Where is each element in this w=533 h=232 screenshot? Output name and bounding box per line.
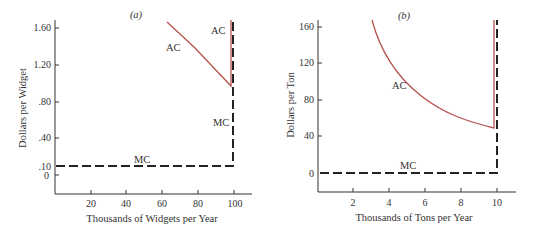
x-tick-label: 40 xyxy=(121,198,131,209)
x-tick-label: 4 xyxy=(387,197,392,208)
x-tick-label: 100 xyxy=(228,198,243,209)
y-tick-label: .40 xyxy=(39,132,52,143)
y-tick-label: 0 xyxy=(309,168,314,179)
panel-b: (b) 160 120 80 40 0 2 4 6 8 10 xyxy=(285,10,516,223)
mc-label: MC xyxy=(134,154,150,165)
y-tick-label: 0 xyxy=(44,170,49,181)
panel-a: (a) 1.60 1.20 .80 .40 .10 0 20 40 xyxy=(17,9,252,224)
x-tick-label: 80 xyxy=(193,198,203,209)
figure: (a) 1.60 1.20 .80 .40 .10 0 20 40 xyxy=(0,0,533,232)
x-tick-label: 2 xyxy=(351,197,356,208)
y-tick-label: 40 xyxy=(304,130,314,141)
y-tick-label: .80 xyxy=(39,96,52,107)
x-axis-label: Thousands of Widgets per Year xyxy=(86,213,218,224)
x-ticks: 20 40 60 80 100 xyxy=(86,190,243,209)
y-tick-label: 1.60 xyxy=(34,22,52,33)
mc-curve xyxy=(320,20,497,173)
y-axis-label: Dollars per Ton xyxy=(285,71,296,137)
x-tick-label: 20 xyxy=(86,198,96,209)
x-ticks: 2 4 6 8 10 xyxy=(351,188,503,208)
panel-a-label: (a) xyxy=(130,9,143,21)
panel-b-label: (b) xyxy=(398,10,411,22)
mc-label: MC xyxy=(400,160,416,171)
ac-curve xyxy=(372,20,494,128)
ac-label: AC xyxy=(166,42,181,53)
y-tick-label: 120 xyxy=(299,57,314,68)
y-ticks: 160 120 80 40 0 xyxy=(299,21,322,179)
x-tick-label: 10 xyxy=(492,197,502,208)
mc-label: MC xyxy=(213,117,229,128)
y-tick-label: 1.20 xyxy=(34,59,52,70)
ac-label: AC xyxy=(392,80,407,91)
x-axis-label: Thousands of Tons per Year xyxy=(355,212,473,223)
mc-curve xyxy=(56,20,233,166)
x-tick-label: 8 xyxy=(459,197,464,208)
x-tick-label: 6 xyxy=(423,197,428,208)
y-tick-label: 80 xyxy=(304,94,314,105)
y-axis-label: Dollars per Widget xyxy=(17,68,28,148)
x-tick-label: 60 xyxy=(157,198,167,209)
ac-label: AC xyxy=(211,25,226,36)
y-tick-label: 160 xyxy=(299,21,314,32)
